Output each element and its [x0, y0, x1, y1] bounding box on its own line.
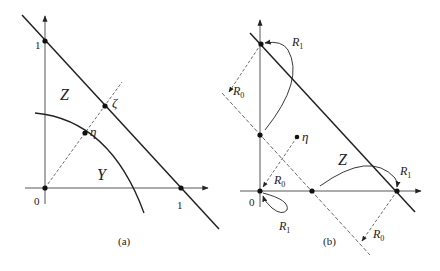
reflection-line-dashed [222, 93, 370, 255]
r1-arrow-top [265, 42, 293, 130]
point-y-mid [257, 132, 262, 137]
simplex-line [22, 15, 219, 229]
origin-label: 0 [249, 196, 255, 208]
r0-bottom-label: R0 [372, 227, 384, 243]
r1-loop-origin [263, 193, 287, 213]
eta-label: η [302, 129, 308, 144]
r1-arrow-right [320, 166, 397, 187]
r0-mid-label: R0 [273, 173, 285, 189]
point-right [394, 188, 399, 193]
r1-top-label: R1 [291, 35, 303, 51]
region-z-label: Z [60, 86, 70, 103]
region-y-label: Y [97, 166, 108, 183]
tick-y-label: 1 [35, 39, 41, 51]
point-zeta [102, 103, 107, 108]
point-eta [295, 135, 300, 140]
eta-label: η [90, 124, 96, 139]
tick-x-label: 1 [177, 199, 183, 211]
point-y1 [42, 38, 47, 43]
point-top [258, 41, 263, 46]
point-origin [257, 188, 262, 193]
panel-b: R1 R0 η Z R0 R1 0 R1 R0 (b) [222, 20, 421, 255]
region-z-label: Z [338, 151, 348, 168]
caption-b: (b) [323, 235, 336, 248]
diagram-canvas: 1 1 0 Z Y ζ η (a) R1 R0 η Z R0 R1 0 [0, 0, 440, 271]
point-x-mid [309, 188, 314, 193]
panel-a: 1 1 0 Z Y ζ η (a) [22, 15, 219, 248]
point-origin [42, 185, 47, 190]
caption-a: (a) [118, 235, 131, 248]
r1-right-label: R1 [399, 164, 411, 180]
point-eta [82, 130, 87, 135]
origin-label: 0 [34, 195, 40, 207]
zeta-label: ζ [112, 95, 118, 110]
r1-origin-label: R1 [278, 219, 290, 235]
point-x1 [178, 185, 183, 190]
r0-left-label: R0 [232, 84, 244, 100]
